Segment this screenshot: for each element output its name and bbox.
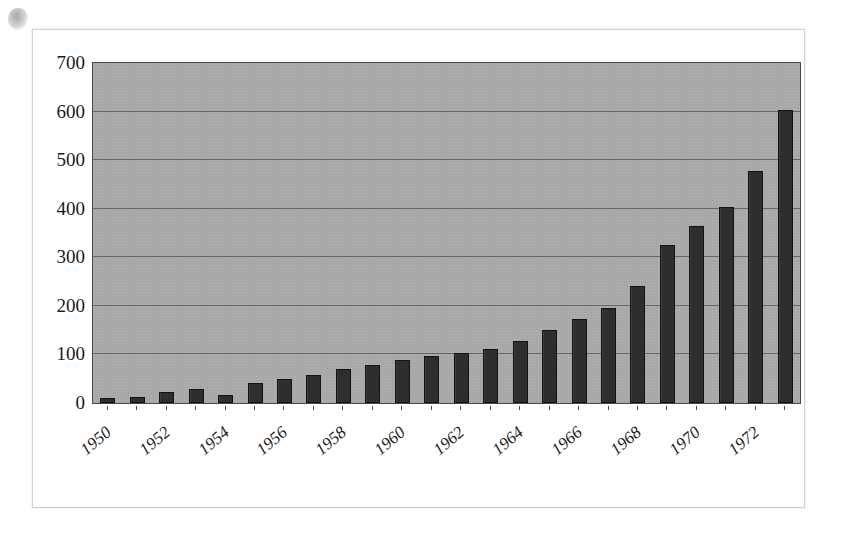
bar [748,171,763,403]
x-axis-tick-mark [431,406,432,410]
x-axis-tick-label: 1964 [489,423,528,460]
bar [189,389,204,403]
x-axis-tick-mark [225,406,226,410]
x-axis-tick-label: 1958 [312,423,351,460]
x-axis-tick-mark [578,406,579,410]
bar [395,360,410,403]
x-axis-tick-mark [696,406,697,410]
x-axis-tick-mark [107,406,108,410]
x-axis-tick-mark [460,406,461,410]
x-axis-tick-mark [755,406,756,410]
x-axis-tick-label: 1950 [77,423,116,460]
x-axis-tick-mark [372,406,373,410]
x-axis-tick-mark [784,406,785,410]
y-axis-tick-label: 700 [39,53,85,72]
x-axis-tick-label: 1952 [136,423,175,460]
bar [719,207,734,403]
x-axis: 1950195219541956195819601962196419661968… [92,406,801,486]
y-axis-tick-label: 100 [39,344,85,363]
scan-smudge-artifact [8,8,28,30]
bar [513,341,528,403]
bar [130,397,145,403]
x-axis-tick-mark [166,406,167,410]
x-axis-tick-label: 1962 [430,423,469,460]
x-axis-tick-mark [342,406,343,410]
bar [336,369,351,403]
y-axis-tick-label: 0 [39,393,85,412]
x-axis-tick-mark [313,406,314,410]
x-axis-tick-mark [283,406,284,410]
bar [454,353,469,403]
x-axis-tick-mark [136,406,137,410]
x-axis-tick-mark [254,406,255,410]
bar [306,375,321,403]
gridline [93,111,800,112]
bar [601,308,616,403]
x-axis-tick-label: 1960 [371,423,410,460]
x-axis-tick-mark [637,406,638,410]
bar [277,379,292,403]
x-axis-tick-mark [490,406,491,410]
x-axis-tick-label: 1970 [666,423,705,460]
x-axis-tick-mark [519,406,520,410]
bar [248,383,263,403]
gridline [93,159,800,160]
bar [572,319,587,403]
y-axis-tick-label: 500 [39,150,85,169]
figure-frame: 0100200300400500600700 19501952195419561… [32,29,805,508]
x-axis-tick-mark [608,406,609,410]
bar [778,110,793,403]
bar-chart: 0100200300400500600700 19501952195419561… [33,30,806,509]
gridline [93,208,800,209]
y-axis-tick-label: 400 [39,199,85,218]
bar [483,349,498,403]
bar [218,395,233,403]
bar [365,365,380,403]
bar [542,330,557,403]
y-axis-tick-label: 200 [39,296,85,315]
x-axis-tick-mark [401,406,402,410]
x-axis-tick-mark [549,406,550,410]
x-axis-tick-mark [666,406,667,410]
y-axis-tick-label: 600 [39,102,85,121]
x-axis-tick-label: 1972 [725,423,764,460]
x-axis-tick-label: 1968 [607,423,646,460]
bar [159,392,174,403]
bar [424,356,439,403]
y-axis: 0100200300400500600700 [33,62,85,404]
x-axis-tick-mark [195,406,196,410]
x-axis-tick-label: 1956 [253,423,292,460]
x-axis-tick-label: 1966 [548,423,587,460]
x-axis-tick-label: 1954 [195,423,234,460]
x-axis-tick-mark [725,406,726,410]
y-axis-tick-label: 300 [39,247,85,266]
bar [100,398,115,403]
bar [660,245,675,403]
bar [630,286,645,403]
plot-area [92,62,801,404]
bar [689,226,704,403]
